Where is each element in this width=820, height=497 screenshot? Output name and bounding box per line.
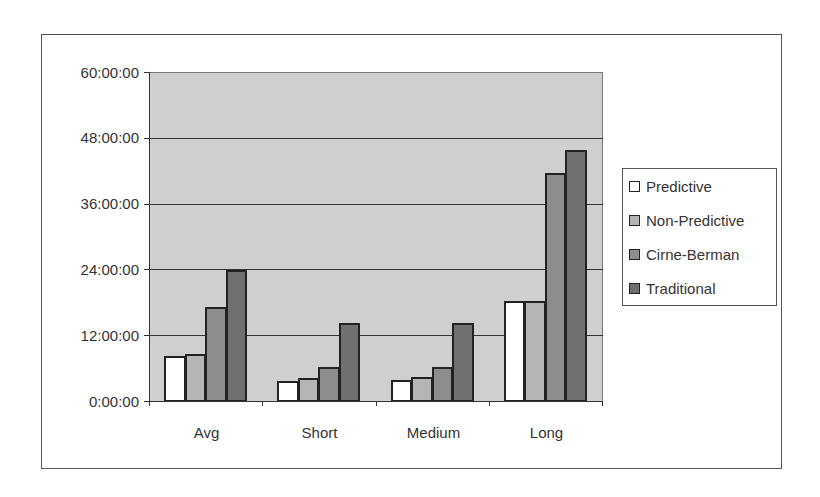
y-tick-mark: [144, 204, 149, 205]
legend: Predictive Non-Predictive Cirne-Berman T…: [622, 168, 777, 306]
x-tick-mark: [262, 401, 263, 406]
bar-cirne-berman-medium: [432, 367, 454, 402]
y-tick-label: 48:00:00: [40, 130, 139, 146]
y-tick-label: 60:00:00: [40, 65, 139, 81]
bar-non-predictive-long: [524, 301, 546, 402]
bar-predictive-avg: [164, 356, 186, 402]
legend-item-predictive: Predictive: [629, 176, 712, 196]
x-tick-mark: [602, 401, 603, 406]
legend-item-cirne-berman: Cirne-Berman: [629, 244, 739, 264]
y-tick-label: 12:00:00: [40, 328, 139, 344]
bar-traditional-avg: [226, 270, 248, 402]
bar-cirne-berman-short: [318, 367, 340, 402]
x-tick-label: Medium: [377, 424, 490, 441]
x-tick-mark: [489, 401, 490, 406]
bar-predictive-medium: [391, 380, 413, 402]
x-tick-mark: [149, 401, 150, 406]
gridline: [149, 138, 603, 139]
y-tick-label: 0:00:00: [40, 394, 139, 410]
gridline: [149, 269, 603, 270]
bar-non-predictive-medium: [411, 377, 433, 402]
legend-label: Cirne-Berman: [646, 246, 739, 263]
legend-label: Traditional: [646, 280, 715, 297]
y-tick-mark: [144, 269, 149, 270]
legend-label: Non-Predictive: [646, 212, 744, 229]
bar-traditional-medium: [452, 323, 474, 402]
bar-non-predictive-short: [298, 378, 320, 402]
bar-non-predictive-avg: [185, 354, 207, 402]
legend-item-traditional: Traditional: [629, 278, 715, 298]
y-axis-line: [149, 72, 150, 402]
x-tick-mark: [376, 401, 377, 406]
bar-cirne-berman-long: [545, 173, 567, 402]
bar-predictive-short: [277, 381, 299, 402]
bar-predictive-long: [504, 301, 526, 402]
x-tick-label: Short: [263, 424, 376, 441]
y-tick-label: 24:00:00: [40, 262, 139, 278]
y-tick-mark: [144, 335, 149, 336]
legend-item-non-predictive: Non-Predictive: [629, 210, 744, 230]
bar-cirne-berman-avg: [205, 307, 227, 402]
legend-swatch: [629, 215, 640, 226]
x-tick-label: Avg: [150, 424, 263, 441]
x-tick-label: Long: [490, 424, 603, 441]
y-tick-mark: [144, 72, 149, 73]
bar-traditional-short: [339, 323, 361, 402]
gridline: [149, 204, 603, 205]
y-tick-label: 36:00:00: [40, 196, 139, 212]
y-tick-mark: [144, 138, 149, 139]
legend-swatch: [629, 181, 640, 192]
legend-label: Predictive: [646, 178, 712, 195]
bar-traditional-long: [565, 150, 587, 402]
legend-swatch: [629, 249, 640, 260]
legend-swatch: [629, 283, 640, 294]
